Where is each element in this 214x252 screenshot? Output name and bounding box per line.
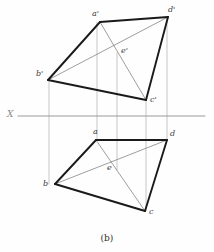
axis-label-x: X: [7, 110, 13, 119]
edge-c-b: [55, 184, 145, 211]
thin-diagonal-lines: [48, 17, 168, 211]
label-a: a: [93, 128, 98, 136]
diagonal-a-prime-c-prime: [100, 22, 146, 100]
projector-lines: [49, 17, 167, 211]
edge-b-a: [55, 140, 96, 184]
diagonal-b-d: [55, 140, 167, 184]
diagonal-b-prime-d-prime: [48, 17, 168, 80]
label-e-prime: e': [121, 47, 128, 55]
outline-lines: [48, 17, 168, 211]
label-b-prime: b': [36, 70, 43, 78]
label-b: b: [43, 180, 48, 188]
figure-caption: (b): [95, 234, 119, 243]
edge-b-prime-a-prime: [48, 22, 100, 80]
label-c: c: [149, 208, 153, 216]
diagonal-a-c: [96, 140, 145, 211]
label-d-prime: d': [168, 6, 175, 14]
label-a-prime: a': [92, 10, 99, 18]
orthographic-projection-figure: [0, 0, 214, 252]
label-e: e: [107, 164, 112, 172]
edge-d-c: [145, 140, 167, 211]
label-d: d: [170, 130, 175, 138]
edge-d-prime-c-prime: [146, 17, 168, 100]
label-c-prime: c': [150, 96, 157, 104]
edge-a-prime-d-prime: [100, 17, 168, 22]
